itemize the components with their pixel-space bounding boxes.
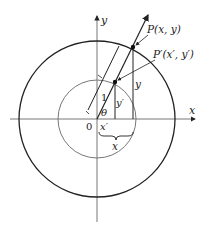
unit-length-label: 1 bbox=[101, 92, 107, 103]
angle-theta-label: θ bbox=[101, 107, 107, 118]
origin-label: 0 bbox=[86, 121, 92, 132]
point-P-prime bbox=[113, 80, 117, 84]
point-P bbox=[131, 45, 135, 49]
unit-length-tick-top bbox=[98, 75, 102, 78]
point-P-label: P(x, y) bbox=[146, 23, 181, 35]
x-length-label: x bbox=[112, 140, 118, 152]
unit-length-tick-bottom bbox=[86, 111, 89, 114]
y-axis-label: y bbox=[100, 14, 108, 27]
x-brace bbox=[99, 132, 133, 140]
x-axis-label: x bbox=[189, 104, 196, 117]
leader-P-prime bbox=[118, 60, 155, 80]
y-length-label: y bbox=[134, 78, 142, 90]
y-prime-label: y′ bbox=[115, 97, 125, 108]
unit-circle-diagram: y x 0 P(x, y) P′(x′, y′) 1 θ x′ y′ y x bbox=[0, 0, 212, 227]
x-prime-label: x′ bbox=[100, 121, 109, 132]
point-P-prime-label: P′(x′, y′) bbox=[152, 48, 194, 60]
